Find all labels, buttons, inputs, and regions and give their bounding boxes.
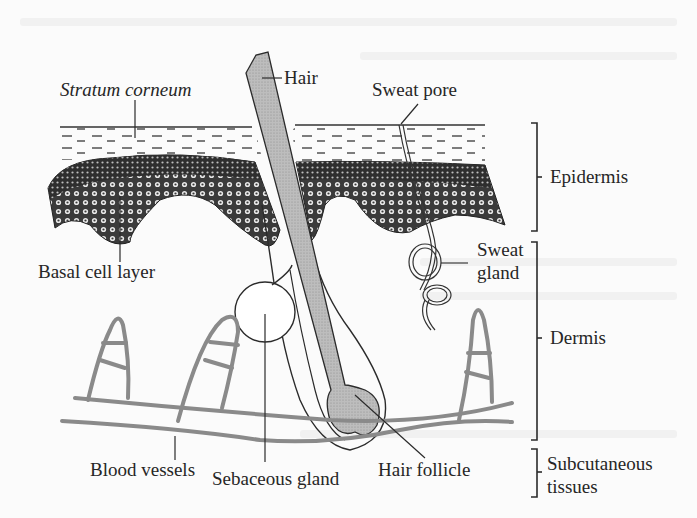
label-hair-follicle: Hair follicle bbox=[378, 460, 470, 480]
label-epidermis: Epidermis bbox=[550, 167, 628, 187]
label-stratum-corneum: Stratum corneum bbox=[60, 80, 191, 100]
skin-illustration bbox=[0, 0, 697, 518]
label-subcutaneous-line1: Subcutaneous bbox=[547, 454, 653, 474]
label-sebaceous-gland: Sebaceous gland bbox=[212, 469, 339, 489]
skin-diagram: Stratum corneum Hair Sweat pore Epidermi… bbox=[0, 0, 697, 518]
label-dermis: Dermis bbox=[550, 328, 606, 348]
label-blood-vessels: Blood vessels bbox=[90, 460, 195, 480]
label-sweat-gland-line1: Sweat bbox=[477, 240, 523, 260]
layer-brackets bbox=[531, 123, 542, 497]
label-subcutaneous-line2: tissues bbox=[547, 477, 598, 497]
label-basal-cell-layer: Basal cell layer bbox=[38, 262, 155, 282]
label-sweat-pore: Sweat pore bbox=[372, 80, 457, 100]
label-hair: Hair bbox=[284, 68, 318, 88]
label-sweat-gland-line2: gland bbox=[477, 263, 519, 283]
